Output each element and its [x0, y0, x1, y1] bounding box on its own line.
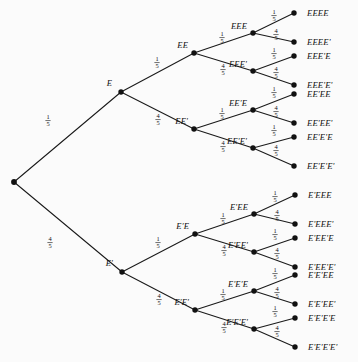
tree-leaf-node [291, 163, 296, 168]
tree-leaf-node [292, 235, 297, 240]
tree-leaf-node [292, 301, 297, 306]
branch-probability-fraction: 15 [271, 85, 276, 99]
branch-probability-fraction: 15 [220, 211, 225, 225]
tree-node-label: E'E' [173, 297, 189, 307]
fraction-numerator: 4 [48, 235, 52, 242]
tree-leaf-label: E'EE'E [307, 233, 334, 243]
fraction-denominator: 5 [275, 215, 278, 222]
tree-leaf-label: EE'EE' [306, 118, 333, 128]
tree-node-label: EE [176, 40, 188, 50]
branch-probability-fraction: 45 [273, 27, 278, 41]
tree-branch [14, 92, 121, 182]
probability-tree-figure: EE'EEEE'E'EE'E'EEEEEE'EE'EEE'E'E'EEE'EE'… [0, 0, 358, 362]
branch-probability-fraction: 45 [273, 143, 278, 157]
branch-probability-fraction: 15 [272, 189, 277, 203]
fraction-denominator: 5 [273, 196, 276, 203]
branch-probability-fraction: 15 [271, 8, 276, 22]
fraction-denominator: 5 [272, 53, 275, 60]
fraction-denominator: 5 [274, 72, 277, 79]
fraction-denominator: 5 [274, 111, 277, 118]
tree-node [251, 288, 256, 293]
branch-probability-fraction: 45 [220, 139, 225, 153]
branch-probability-fraction: 45 [221, 243, 226, 257]
tree-leaf-label: EE'E'E' [306, 161, 335, 171]
branch-probability-fraction: 45 [274, 285, 279, 299]
fraction-numerator: 4 [274, 143, 278, 150]
fraction-numerator: 1 [220, 106, 223, 113]
tree-nodes-layer [11, 10, 298, 349]
fraction-denominator: 5 [222, 327, 225, 334]
fraction-numerator: 1 [46, 113, 49, 120]
fraction-denominator: 5 [272, 130, 275, 137]
branch-probability-fraction: 45 [155, 112, 160, 126]
fraction-denominator: 5 [273, 234, 276, 241]
branch-probability-fraction: 15 [219, 30, 224, 44]
fraction-numerator: 1 [272, 8, 275, 15]
fraction-denominator: 5 [273, 273, 276, 280]
fraction-numerator: 1 [221, 211, 224, 218]
fraction-denominator: 5 [222, 250, 225, 257]
fraction-numerator: 1 [220, 30, 223, 37]
tree-node-label: E'EE' [227, 240, 248, 250]
fraction-numerator: 4 [157, 292, 161, 299]
fraction-numerator: 4 [221, 139, 225, 146]
fraction-numerator: 1 [272, 123, 275, 130]
fraction-numerator: 1 [156, 235, 159, 242]
tree-node-label: EEE' [228, 59, 247, 69]
tree-leaf-node [291, 91, 296, 96]
tree-node [250, 107, 255, 112]
branch-probability-fraction: 15 [272, 266, 277, 280]
probability-tree-canvas: EE'EEEE'E'EE'E'EEEEEE'EE'EEE'E'E'EEE'EE'… [0, 0, 358, 362]
branch-probability-fraction: 15 [272, 227, 277, 241]
fraction-denominator: 5 [155, 62, 158, 69]
branch-probability-fraction: 45 [47, 235, 52, 249]
tree-node [251, 211, 256, 216]
tree-node-label: E'E [175, 221, 189, 231]
tree-leaf-label: EEEE [306, 8, 329, 18]
branch-probability-fraction: 45 [274, 324, 279, 338]
branch-probability-fraction: 15 [154, 55, 159, 69]
tree-leaf-node [291, 134, 296, 139]
fraction-denominator: 5 [221, 146, 224, 153]
tree-node [192, 307, 197, 312]
fraction-numerator: 1 [273, 266, 276, 273]
fraction-denominator: 5 [220, 113, 223, 120]
fraction-numerator: 1 [272, 46, 275, 53]
tree-node-label: E'E'E' [225, 317, 248, 327]
fraction-numerator: 1 [273, 189, 276, 196]
tree-leaf-node [292, 221, 297, 226]
fraction-denominator: 5 [275, 292, 278, 299]
tree-node [251, 326, 256, 331]
tree-node [118, 89, 123, 94]
fraction-denominator: 5 [220, 37, 223, 44]
fraction-denominator: 5 [221, 294, 224, 301]
fraction-numerator: 4 [275, 208, 279, 215]
tree-leaf-label: EEEE' [306, 37, 331, 47]
fraction-denominator: 5 [275, 331, 278, 338]
tree-leaf-label: EEE'E [306, 51, 331, 61]
branch-probability-fraction: 45 [273, 65, 278, 79]
fraction-denominator: 5 [221, 69, 224, 76]
fraction-denominator: 5 [48, 242, 51, 249]
tree-node [250, 30, 255, 35]
tree-leaf-node [291, 120, 296, 125]
tree-leaf-node [292, 272, 297, 277]
tree-node-label: EEE [230, 21, 248, 31]
fraction-numerator: 4 [222, 243, 226, 250]
tree-node [119, 269, 124, 274]
tree-node-root [11, 179, 17, 185]
fraction-denominator: 5 [274, 150, 277, 157]
fraction-denominator: 5 [272, 92, 275, 99]
tree-leaf-node [291, 39, 296, 44]
tree-leaf-label: E'E'EE' [307, 299, 336, 309]
fraction-numerator: 4 [275, 324, 279, 331]
tree-leaf-labels-layer: EEEEEEEE'EEE'EEEE'E'EE'EEEE'EE'EE'E'EEE'… [306, 8, 338, 352]
tree-leaf-label: E'E'E'E' [307, 342, 338, 352]
fraction-numerator: 4 [274, 65, 278, 72]
branch-probability-fraction: 45 [274, 246, 279, 260]
tree-node [192, 231, 197, 236]
fraction-numerator: 4 [274, 27, 278, 34]
branch-probability-fraction: 15 [272, 304, 277, 318]
tree-leaf-node [292, 315, 297, 320]
tree-node [250, 145, 255, 150]
